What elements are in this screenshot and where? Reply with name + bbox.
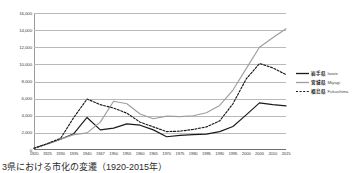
legend-label-jp: 岩手県 (311, 71, 326, 77)
y-axis-tick-label: 2,000 (2, 130, 32, 135)
legend-label-jp: 福島県 (311, 89, 326, 95)
legend-line-icon (296, 70, 309, 77)
y-axis-tick-label: 12,000 (2, 45, 32, 50)
y-axis-tick-label: 10,000 (2, 62, 32, 67)
plot-area (34, 13, 286, 150)
y-axis-tick-labels: 16,00014,00012,00010,0008,0006,0004,0002… (0, 13, 32, 150)
y-axis-tick-label: 4,000 (2, 113, 32, 118)
legend-label-en: Miyagi (328, 80, 340, 86)
y-axis-tick-label: 14,000 (2, 28, 32, 33)
legend-item[interactable]: 宮城県Miyagi (296, 78, 358, 87)
x-axis-tick-label: 2015 (277, 151, 295, 157)
y-axis-tick-label: 16,000 (2, 11, 32, 16)
legend-label-jp: 宮城県 (311, 80, 326, 86)
figure-caption: 3県における市化の変遷（1920-2015年） (2, 162, 359, 173)
legend: 岩手県Iwate宮城県Miyagi福島県Fukushima (296, 69, 358, 96)
series-line (34, 103, 286, 148)
legend-line-icon (296, 88, 309, 95)
series-lines (34, 13, 286, 150)
legend-line-icon (296, 79, 309, 86)
legend-item[interactable]: 岩手県Iwate (296, 69, 358, 78)
y-axis-tick-label: 8,000 (2, 79, 32, 84)
legend-item[interactable]: 福島県Fukushima (296, 87, 358, 96)
line-chart-figure: 16,00014,00012,00010,0008,0006,0004,0002… (0, 0, 359, 173)
x-axis-tick-labels: 1920192519301935194019471950195519601965… (34, 151, 286, 160)
legend-label-en: Iwate (328, 71, 338, 77)
series-line (34, 29, 286, 148)
legend-label-en: Fukushima (328, 89, 349, 95)
y-axis-tick-label: 6,000 (2, 96, 32, 101)
